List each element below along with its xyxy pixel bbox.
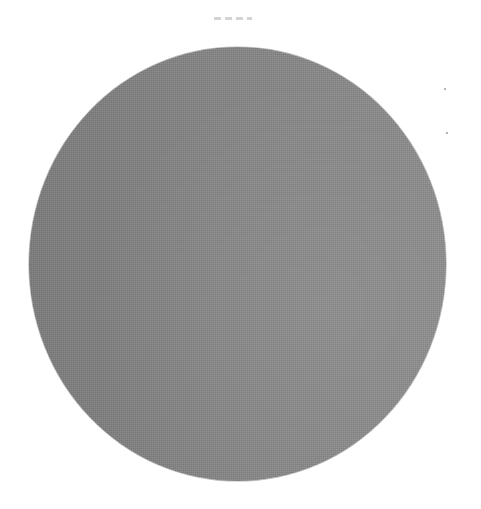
scan-speck xyxy=(444,88,446,90)
gray-disc xyxy=(29,47,446,481)
scan-speck xyxy=(446,132,448,134)
scan-artifact-mark xyxy=(214,17,252,20)
